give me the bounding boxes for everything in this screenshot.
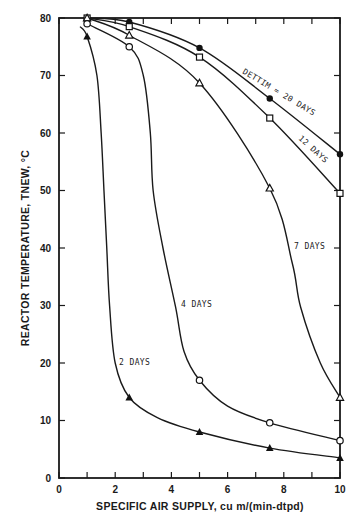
filled-circle-marker [267,95,273,101]
open-circle-marker [337,437,343,443]
open-circle-marker [267,420,273,426]
data-markers [83,14,344,461]
y-tick-label: 40 [40,243,52,254]
open-circle-marker [196,377,202,383]
y-axis-title: REACTOR TEMPERATURE, TNEW, °C [19,150,31,346]
filled-triangle-marker [83,32,91,39]
x-tick-label: 0 [56,484,62,495]
open-square-marker [337,190,343,196]
x-tick-label: 2 [112,484,118,495]
y-tick-label: 50 [40,185,52,196]
filled-circle-marker [196,45,202,51]
x-tick-label: 10 [334,484,346,495]
curve-label: 2 DAYS [119,358,150,367]
axes: 024681001020304050607080 [40,13,346,496]
curve-7-days [87,18,340,398]
open-square-marker [126,24,132,30]
open-triangle-marker [266,184,273,191]
open-triangle-marker [126,31,133,38]
open-square-marker [267,115,273,121]
filled-circle-marker [337,151,343,157]
y-tick-label: 10 [40,415,52,426]
y-tick-label: 60 [40,128,52,139]
y-tick-label: 20 [40,358,52,369]
x-axis-title: SPECIFIC AIR SUPPLY, cu m/(min-dtpd) [96,500,304,512]
open-square-marker [197,54,203,60]
y-tick-label: 30 [40,300,52,311]
open-circle-marker [126,44,132,50]
x-tick-label: 8 [281,484,287,495]
x-tick-label: 4 [169,484,175,495]
curve-label: 4 DAYS [181,300,212,309]
curve-label: 12 DAYS [297,134,330,165]
curve-label: DETTIM = 20 DAYS [241,67,317,118]
curve-4-days [87,24,340,441]
curves [80,18,340,458]
open-circle-marker [84,21,90,27]
curve-label: 7 DAYS [294,242,325,251]
curve-labels: DETTIM = 20 DAYS12 DAYS7 DAYS4 DAYS2 DAY… [119,67,330,367]
temperature-vs-air-supply-chart: 024681001020304050607080 DETTIM = 20 DAY… [0,0,356,527]
y-tick-label: 70 [40,70,52,81]
x-tick-label: 6 [225,484,231,495]
y-tick-label: 80 [40,13,52,24]
y-tick-label: 0 [45,473,51,484]
